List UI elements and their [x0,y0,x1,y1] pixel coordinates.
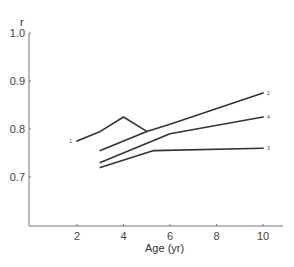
data-point [169,133,171,135]
y-tick-label: 0.7 [10,171,25,183]
series-label-3: 3 [267,145,270,151]
x-tick-label: 2 [74,230,80,242]
line-chart: r Age (yr) 0.70.80.91.0 246810 1243 [0,0,294,267]
data-point [262,92,264,94]
series-lines: 1243 [69,90,270,168]
data-point [76,140,78,142]
data-point [146,131,148,133]
data-point [262,147,264,149]
series-label-4: 4 [267,114,270,120]
series-label-1: 1 [69,138,72,144]
series-label-2: 2 [267,90,270,96]
data-point [99,131,101,133]
x-tick-label: 6 [167,230,173,242]
y-tick-label: 0.8 [10,123,25,135]
data-point [153,150,155,152]
y-ticks: 0.70.80.91.0 [10,27,31,183]
data-point [169,123,171,125]
data-point [99,150,101,152]
x-tick-label: 10 [257,230,269,242]
x-axis-title: Age (yr) [145,242,184,254]
series-line-1 [77,117,147,141]
data-point [99,162,101,164]
series-line-3 [100,148,263,167]
x-tick-label: 8 [213,230,219,242]
y-tick-label: 1.0 [10,27,25,39]
data-point [262,116,264,118]
data-point [99,167,101,169]
x-tick-label: 4 [120,230,126,242]
y-tick-label: 0.9 [10,75,25,87]
data-point [123,116,125,118]
x-ticks: 246810 [74,224,269,242]
